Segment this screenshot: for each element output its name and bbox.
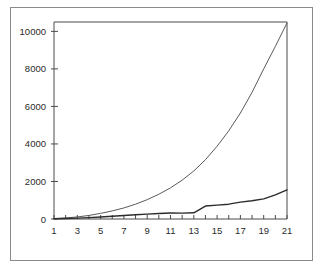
x-axis-tick-labels: 13579111315171921	[51, 225, 292, 236]
y-tick-label: 10000	[20, 26, 46, 37]
plot-area-border	[54, 22, 287, 219]
x-tick-label: 15	[212, 225, 223, 236]
line-chart: 13579111315171921 0200040006000800010000	[0, 0, 323, 275]
plot-box	[54, 22, 287, 219]
series-line-lower-curve	[54, 190, 287, 219]
series-line-upper-curve	[54, 23, 287, 219]
y-axis-tick-labels: 0200040006000800010000	[20, 26, 46, 225]
data-series-group	[54, 23, 287, 219]
x-tick-label: 3	[75, 225, 80, 236]
x-tick-label: 9	[145, 225, 150, 236]
chart-figure: 13579111315171921 0200040006000800010000	[0, 0, 323, 275]
x-tick-label: 19	[258, 225, 269, 236]
y-tick-label: 0	[41, 214, 46, 225]
y-tick-label: 2000	[25, 176, 46, 187]
x-tick-label: 5	[98, 225, 103, 236]
x-tick-label: 21	[282, 225, 293, 236]
y-tick-label: 8000	[25, 63, 46, 74]
x-tick-label: 7	[121, 225, 126, 236]
x-tick-label: 17	[235, 225, 246, 236]
y-tick-label: 4000	[25, 138, 46, 149]
y-tick-label: 6000	[25, 101, 46, 112]
x-tick-label: 1	[51, 225, 56, 236]
x-tick-label: 11	[166, 225, 176, 236]
x-tick-label: 13	[189, 225, 200, 236]
